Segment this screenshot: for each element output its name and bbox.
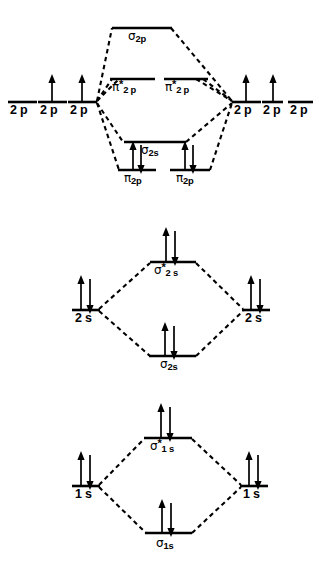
pi-glyph: π <box>165 80 172 94</box>
label-sigma-2s: σ2s <box>160 358 177 370</box>
pi-2p-a-subscript: 2p <box>131 176 142 186</box>
electron-pair-left-1s <box>77 451 93 490</box>
correlation-lines-2p-panel <box>97 28 232 170</box>
label-right-2p-1: 2 p <box>234 104 251 117</box>
electron-right-2p-2 <box>269 74 276 102</box>
label-left-2p-2: 2 p <box>40 104 57 117</box>
label-sigma-2p: σ2p <box>128 30 146 42</box>
mo-diagram-canvas <box>0 0 319 561</box>
pi-glyph: π <box>112 80 119 94</box>
label-pi-star-2p-a: π*2 p <box>112 81 136 93</box>
asterisk: * <box>157 437 161 449</box>
electron-left-2p-2 <box>48 74 55 102</box>
label-pi-2p-b: π2p <box>176 172 194 184</box>
pi-glyph: π <box>176 171 183 185</box>
label-left-1s: 1 s <box>75 488 92 501</box>
pi-star-2p-b-subscript: 2 p <box>176 85 189 95</box>
electron-pair-sigma-1s <box>158 499 174 537</box>
asterisk: * <box>161 261 165 273</box>
label-left-2s: 2 s <box>75 312 92 325</box>
label-left-2p-1: 2 p <box>10 104 27 117</box>
label-right-2p-2: 2 p <box>263 104 280 117</box>
electron-pair-left-2s <box>77 275 93 314</box>
electron-right-2p-1 <box>242 74 249 102</box>
label-pi-star-2p-b: π*2 p <box>165 81 189 93</box>
label-pi-2p-a: π2p <box>124 172 142 184</box>
label-sigma-star-2s: σ*2 s <box>154 264 178 276</box>
electron-pair-right-2s <box>247 275 263 314</box>
pi-star-2p-a-subscript: 2 p <box>123 85 136 95</box>
label-right-2p-3: 2 p <box>290 104 307 117</box>
pi-glyph: π <box>124 171 131 185</box>
electron-left-2p-3 <box>78 74 85 102</box>
electron-pair-sigma-2s <box>161 322 177 360</box>
label-right-2s: 2 s <box>245 312 262 325</box>
electron-pair-right-1s <box>245 451 261 490</box>
label-left-2p-3: 2 p <box>70 104 87 117</box>
sigma-star-2s-subscript: 2 s <box>166 268 178 278</box>
pi-2p-b-subscript: 2p <box>183 176 194 186</box>
label-right-1s: 1 s <box>243 488 260 501</box>
sigma-2s-center-subscript: 2s <box>148 148 158 158</box>
label-sigma-2s-center: σ2s <box>141 144 158 156</box>
sigma-1s-subscript: 1s <box>163 541 173 551</box>
sigma-2p-subscript: 2p <box>135 34 146 44</box>
sigma-star-1s-subscript: 1 s <box>162 444 174 454</box>
sigma-2s-subscript: 2s <box>167 362 177 372</box>
mo-diagram-figure: σ2p π*2 p π*2 p σ2s π2p π2p 2 p 2 p 2 p … <box>0 0 319 561</box>
label-sigma-star-1s: σ*1 s <box>150 440 174 452</box>
label-sigma-1s: σ1s <box>156 537 173 549</box>
